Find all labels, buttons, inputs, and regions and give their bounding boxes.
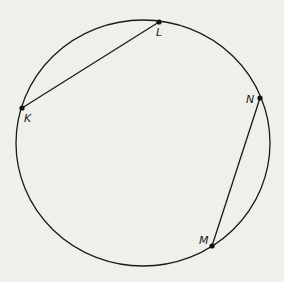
label-n: N <box>246 93 254 106</box>
point-l <box>156 19 161 24</box>
circle <box>16 20 270 266</box>
label-k: K <box>24 112 32 125</box>
circle-diagram: L K N M <box>0 0 284 282</box>
point-k <box>19 105 24 110</box>
chord-kl <box>22 22 159 108</box>
label-l: L <box>156 26 162 39</box>
point-n <box>257 95 262 100</box>
label-m: M <box>199 234 209 247</box>
point-m <box>209 243 214 248</box>
chord-nm <box>212 98 260 246</box>
